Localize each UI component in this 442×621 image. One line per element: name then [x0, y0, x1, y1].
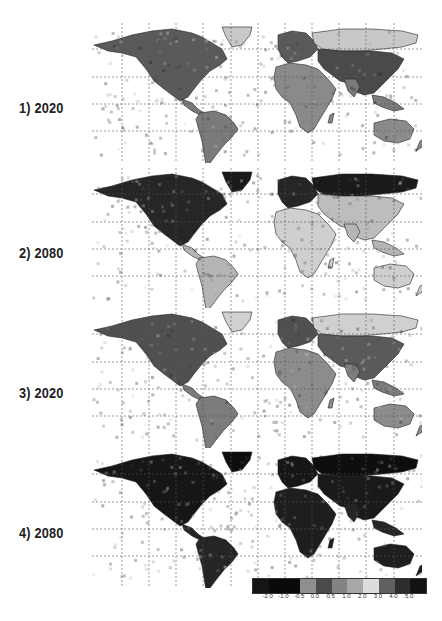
panel-label: 1) 2020	[19, 99, 63, 116]
colorbar-segment	[379, 579, 395, 593]
asiaNorth-region	[312, 454, 418, 476]
world-map	[92, 168, 422, 298]
colorbar-segment	[269, 579, 285, 593]
colorbar-segment	[316, 579, 332, 593]
asiaNorth-region	[312, 174, 418, 196]
colorbar-tick-label: 4.0	[389, 593, 397, 599]
colorbar-ticks: -2.0-1.0-0.50.00.51.02.03.04.05.0	[252, 593, 425, 603]
colorbar-tick-label: -2.0	[263, 593, 273, 599]
colorbar-segment	[253, 579, 269, 593]
world-map	[92, 308, 422, 438]
colorbar-segment	[410, 579, 426, 593]
africa-region	[274, 63, 336, 133]
africa-region	[274, 348, 336, 418]
colorbar-tick-label: -1.0	[278, 593, 288, 599]
colorbar-tick-label: 5.0	[405, 593, 413, 599]
greenland-region	[222, 452, 252, 472]
panel-label: 3) 2020	[19, 384, 63, 401]
map-panel: 3) 2020	[0, 300, 442, 450]
colorbar-segment	[300, 579, 316, 593]
world-map	[92, 448, 422, 578]
northAmerica-region	[94, 454, 227, 526]
colorbar-segment	[347, 579, 363, 593]
world-map	[92, 23, 422, 153]
colorbar-tick-label: 3.0	[374, 593, 382, 599]
greenland-region	[222, 312, 252, 332]
india-region	[344, 224, 360, 242]
colorbar-tick-label: 1.0	[342, 593, 350, 599]
map-panel: 1) 2020	[0, 15, 442, 165]
colorbar-segment	[284, 579, 300, 593]
colorbar-tick-label: 2.0	[358, 593, 366, 599]
newZealand-region	[416, 424, 422, 436]
greenland-region	[222, 27, 252, 47]
madagascar-region	[328, 398, 334, 408]
madagascar-region	[328, 113, 334, 123]
africa-region	[274, 488, 336, 558]
colorbar-tick-label: -0.5	[294, 593, 304, 599]
seAsia-region	[372, 520, 404, 536]
map-panel: 4) 2080	[0, 440, 442, 590]
colorbar-tick-label: 0.5	[326, 593, 334, 599]
panel-label: 4) 2080	[19, 524, 63, 541]
panel-label: 2) 2080	[19, 244, 63, 261]
colorbar	[252, 578, 427, 594]
northAmerica-region	[94, 314, 227, 386]
colorbar-segment	[332, 579, 348, 593]
colorbar-tick-label: 0.0	[311, 593, 319, 599]
asiaNorth-region	[312, 29, 418, 51]
map-panel: 2) 2080	[0, 160, 442, 310]
colorbar-segment	[363, 579, 379, 593]
greenland-region	[222, 172, 252, 192]
southAmerica-region	[196, 536, 238, 588]
colorbar-segment	[395, 579, 411, 593]
seAsia-region	[372, 240, 404, 256]
